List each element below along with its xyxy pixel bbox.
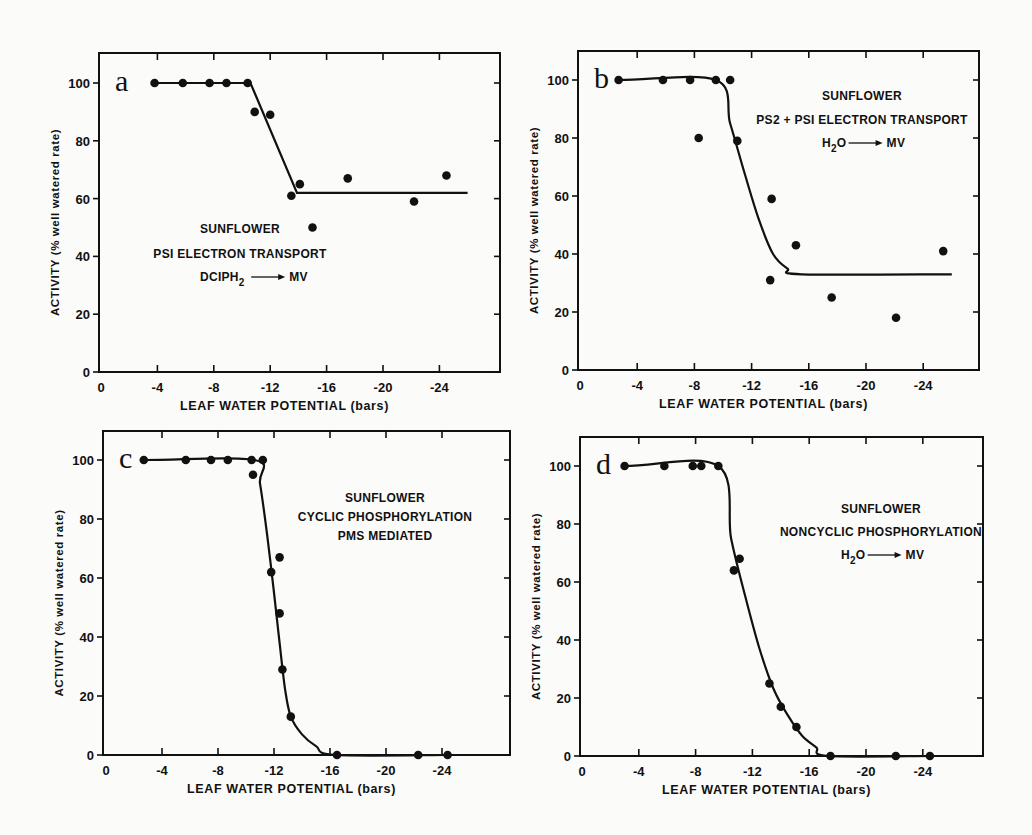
annotation-line: CYCLIC PHOSPHORYLATION [298, 510, 473, 524]
x-tick-label: 0 [97, 380, 104, 395]
data-point [207, 456, 216, 465]
data-point [926, 752, 935, 761]
data-point [249, 470, 258, 479]
data-point [296, 180, 305, 189]
x-tick-label: -8 [212, 763, 224, 778]
x-tick-label: -8 [690, 764, 702, 779]
data-point [275, 553, 284, 562]
annotation-line: NONCYCLIC PHOSPHORYLATION [780, 525, 982, 539]
y-tick-label: 40 [557, 633, 571, 648]
y-axis-title: ACTIVITY (% well watered rate) [49, 129, 61, 316]
chart-c-plot: 0204060801000-4-8-12-16-20-24LEAF WATER … [0, 415, 516, 835]
y-tick-label: 0 [87, 748, 94, 763]
data-point [714, 462, 723, 471]
y-tick-label: 80 [76, 134, 90, 149]
y-tick-label: 100 [68, 76, 90, 91]
x-tick-label: 0 [578, 764, 585, 779]
panel-letter: d [596, 447, 611, 480]
data-point [343, 174, 352, 183]
chart-a-plot: 0204060801000-4-8-12-16-20-24LEAF WATER … [0, 0, 516, 415]
x-tick-label: -24 [913, 764, 933, 779]
data-point [182, 456, 191, 465]
data-point [287, 191, 296, 200]
y-tick-label: 100 [547, 73, 569, 88]
data-point [735, 555, 744, 564]
y-tick-label: 0 [83, 365, 90, 380]
y-tick-label: 0 [562, 363, 569, 378]
y-axis-title: ACTIVITY (% well watered rate) [530, 513, 542, 700]
data-point [278, 665, 287, 674]
data-point [892, 752, 901, 761]
annotation-line: SUNFLOWER [200, 222, 280, 236]
fit-curve [619, 77, 952, 275]
chart-panel-b: 0204060801000-4-8-12-16-20-24LEAF WATER … [516, 0, 1032, 415]
data-point [827, 293, 836, 302]
annotation-product: MV [289, 270, 308, 284]
annotation-line: PS2 + PSI ELECTRON TRANSPORT [756, 113, 968, 127]
data-point [765, 679, 774, 688]
annotation-line: PSI ELECTRON TRANSPORT [153, 247, 327, 261]
x-tick-label: -12 [743, 764, 762, 779]
y-tick-label: 100 [72, 453, 94, 468]
annotation-line: SUNFLOWER [822, 89, 902, 103]
x-tick-label: -4 [152, 380, 164, 395]
x-tick-label: -16 [799, 378, 818, 393]
data-point [792, 241, 801, 250]
x-tick-label: -8 [208, 380, 220, 395]
data-point [414, 751, 423, 760]
data-point [442, 171, 451, 180]
data-point [733, 137, 742, 146]
data-point [178, 79, 187, 88]
x-tick-label: -12 [265, 763, 284, 778]
x-tick-label: -24 [433, 763, 453, 778]
chart-panel-d: 0204060801000-4-8-12-16-20-24LEAF WATER … [516, 415, 1032, 835]
data-point [686, 76, 695, 85]
data-point [150, 79, 159, 88]
chart-panel-a: 0204060801000-4-8-12-16-20-24LEAF WATER … [0, 0, 516, 415]
y-axis-title: ACTIVITY (% well watered rate) [53, 509, 65, 696]
panel-letter: a [115, 64, 128, 97]
y-tick-label: 60 [555, 189, 569, 204]
y-tick-label: 20 [557, 691, 571, 706]
x-tick-label: -4 [631, 378, 643, 393]
data-point [224, 456, 233, 465]
data-point [892, 314, 901, 323]
x-tick-label: -20 [377, 763, 396, 778]
y-tick-label: 80 [80, 512, 94, 527]
data-point [826, 752, 835, 761]
data-point [730, 566, 739, 575]
plot-frame [99, 53, 500, 372]
data-point [614, 76, 623, 85]
data-point [660, 462, 669, 471]
data-point [243, 79, 252, 88]
data-point [287, 712, 296, 721]
y-tick-label: 60 [557, 575, 571, 590]
data-point [697, 462, 706, 471]
data-point [259, 456, 268, 465]
y-axis-title: ACTIVITY (% well watered rate) [528, 127, 540, 314]
data-point [222, 79, 231, 88]
x-tick-label: -4 [156, 763, 168, 778]
x-tick-label: -12 [742, 378, 761, 393]
data-point [267, 568, 276, 577]
y-tick-label: 20 [76, 307, 90, 322]
annotation-product: MV [887, 136, 906, 150]
x-tick-label: -4 [633, 764, 645, 779]
data-point [443, 751, 452, 760]
annotation-line: SUNFLOWER [841, 502, 921, 516]
chart-panel-c: 0204060801000-4-8-12-16-20-24LEAF WATER … [0, 415, 516, 835]
x-axis-title: LEAF WATER POTENTIAL (bars) [659, 397, 868, 411]
data-point [726, 76, 735, 85]
data-point [792, 723, 801, 732]
y-tick-label: 40 [80, 630, 94, 645]
annotation-product: MV [906, 548, 925, 562]
chart-d-plot: 0204060801000-4-8-12-16-20-24LEAF WATER … [516, 415, 1032, 835]
y-tick-label: 80 [555, 131, 569, 146]
y-tick-label: 60 [76, 192, 90, 207]
y-tick-label: 20 [80, 689, 94, 704]
y-tick-label: 0 [564, 749, 571, 764]
data-point [410, 197, 419, 206]
annotation-reaction: DCIPH2 [200, 270, 245, 288]
plot-frame [578, 51, 979, 370]
plot-frame [103, 431, 510, 755]
